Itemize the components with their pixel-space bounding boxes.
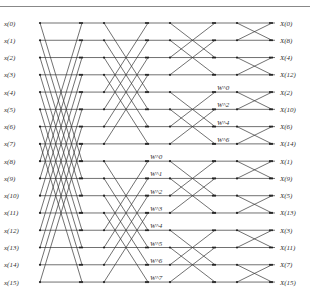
output-label: X(5) xyxy=(279,192,293,200)
input-label: x(1) xyxy=(3,37,16,45)
twiddle-label: W^7 xyxy=(150,274,163,282)
fft-diagram: x(0)X(0)x(1)X(8)x(2)X(4)x(3)X(12)x(4)X(2… xyxy=(0,0,310,299)
output-label: X(11) xyxy=(279,244,296,252)
output-label: X(10) xyxy=(279,106,297,114)
twiddle-label: W^6 xyxy=(150,257,163,265)
output-label: X(7) xyxy=(279,261,293,269)
input-label: x(7) xyxy=(3,140,16,148)
output-label: X(15) xyxy=(279,279,297,287)
input-label: x(5) xyxy=(3,106,16,114)
input-label: x(14) xyxy=(3,261,19,269)
input-label: x(13) xyxy=(3,244,19,252)
input-label: x(4) xyxy=(3,89,16,97)
input-label: x(2) xyxy=(3,54,16,62)
twiddle-label: W^0 xyxy=(150,153,163,161)
twiddle-label: W^6 xyxy=(217,136,230,144)
output-label: X(8) xyxy=(279,37,293,45)
twiddle-label: W^1 xyxy=(150,170,162,178)
output-label: X(6) xyxy=(279,123,293,131)
input-label: x(11) xyxy=(3,209,19,217)
twiddle-label: W^3 xyxy=(150,205,163,213)
twiddle-label: W^2 xyxy=(150,188,163,196)
twiddle-label: W^4 xyxy=(150,222,163,230)
twiddle-label: W^5 xyxy=(150,240,163,248)
output-label: X(12) xyxy=(279,71,297,79)
input-label: x(12) xyxy=(3,227,19,235)
output-label: X(0) xyxy=(279,20,293,28)
twiddle-label: W^2 xyxy=(217,101,230,109)
input-label: x(3) xyxy=(3,71,16,79)
output-label: X(14) xyxy=(279,140,297,148)
twiddle-label: W^4 xyxy=(217,119,230,127)
input-label: x(8) xyxy=(3,158,16,166)
twiddle-label: W^0 xyxy=(217,84,230,92)
input-label: x(6) xyxy=(3,123,16,131)
input-label: x(0) xyxy=(3,20,16,28)
output-label: X(4) xyxy=(279,54,293,62)
butterfly-graph: x(0)X(0)x(1)X(8)x(2)X(4)x(3)X(12)x(4)X(2… xyxy=(0,0,310,299)
output-label: X(9) xyxy=(279,175,293,183)
output-label: X(3) xyxy=(279,227,293,235)
input-label: x(15) xyxy=(3,279,19,287)
output-label: X(2) xyxy=(279,89,293,97)
input-label: x(10) xyxy=(3,192,19,200)
output-label: X(13) xyxy=(279,209,297,217)
output-label: X(1) xyxy=(279,158,293,166)
input-label: x(9) xyxy=(3,175,16,183)
